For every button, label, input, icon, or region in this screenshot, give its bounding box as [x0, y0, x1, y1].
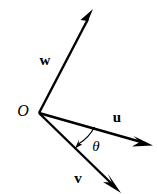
vector-w-label: w: [40, 52, 51, 68]
angle-theta-label: θ: [92, 138, 100, 154]
vector-v-label: v: [74, 170, 82, 186]
vector-diagram-canvas: O w u v θ: [0, 0, 157, 194]
angle-arc-arrowhead: [75, 140, 82, 149]
origin-label: O: [17, 102, 29, 119]
vector-diagram-figure: O w u v θ: [0, 0, 157, 194]
vector-w-arrowhead: [81, 9, 94, 28]
vector-u-label: u: [113, 109, 121, 125]
